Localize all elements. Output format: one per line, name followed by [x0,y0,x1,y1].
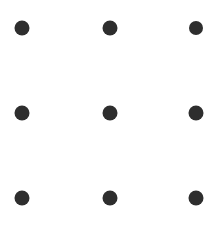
grid-dot [103,21,118,36]
grid-dot [103,191,118,206]
grid-dot [189,21,203,35]
grid-dot [15,191,30,206]
grid-dot [15,106,30,121]
grid-dot [189,106,204,121]
grid-dot [189,191,204,206]
grid-dot [103,106,118,121]
grid-dot [15,21,30,36]
dot-grid-canvas [0,0,219,227]
